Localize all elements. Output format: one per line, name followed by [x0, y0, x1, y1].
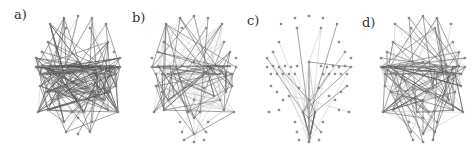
graph-node	[173, 73, 175, 75]
graph-node	[396, 73, 398, 75]
graph-node	[380, 66, 382, 68]
graph-node	[386, 51, 388, 53]
graph-node	[434, 27, 436, 29]
graph-node	[446, 65, 448, 67]
graph-node	[392, 109, 394, 111]
graph-node	[442, 73, 444, 75]
graph-node	[41, 65, 43, 67]
graph-node	[165, 23, 167, 25]
graph-node	[308, 99, 310, 101]
graph-node	[448, 73, 450, 75]
graph-panel-d: d)	[355, 0, 475, 154]
graph-node	[83, 111, 85, 113]
graph-node	[296, 65, 298, 67]
graph-node	[37, 111, 39, 113]
graph-node	[157, 51, 159, 53]
graph-node	[422, 141, 424, 143]
graph-node	[51, 73, 53, 75]
graph-node	[45, 73, 47, 75]
graph-node	[89, 131, 91, 133]
graph-node	[410, 65, 412, 67]
graph-node	[49, 23, 51, 25]
graph-node	[175, 66, 177, 68]
edges	[381, 16, 465, 142]
graph-node	[340, 91, 342, 93]
network-graph	[230, 0, 350, 154]
graph-node	[338, 41, 340, 43]
graph-node	[225, 91, 227, 93]
graph-node	[39, 85, 41, 87]
graph-node	[298, 139, 300, 141]
graph-node	[334, 99, 336, 101]
graph-node	[91, 121, 93, 123]
graph-node	[344, 51, 346, 53]
graph-node	[205, 65, 207, 67]
graph-node	[181, 27, 183, 29]
graph-node	[57, 73, 59, 75]
graph-node	[434, 131, 436, 133]
graph-panel-b: b)	[115, 0, 235, 154]
graph-node	[460, 73, 462, 75]
graph-node	[41, 51, 43, 53]
graph-node	[350, 57, 352, 59]
graph-node	[288, 95, 290, 97]
graph-node	[392, 66, 394, 68]
graph-node	[193, 61, 195, 63]
graph-node	[213, 95, 215, 97]
graph-node	[278, 41, 280, 43]
graph-node	[398, 65, 400, 67]
graph-node	[59, 66, 61, 68]
graph-node	[408, 17, 410, 19]
graph-node	[272, 65, 274, 67]
graph-node	[404, 66, 406, 68]
graph-node	[318, 87, 320, 89]
graph-node	[440, 66, 442, 68]
network-graph	[0, 0, 120, 154]
graph-node	[179, 17, 181, 19]
graph-node	[336, 23, 338, 25]
graph-node	[53, 65, 55, 67]
graph-node	[65, 131, 67, 133]
graph-node	[45, 91, 47, 93]
graph-panel-c: c)	[230, 0, 350, 154]
network-graph	[355, 0, 475, 154]
graph-node	[211, 66, 213, 68]
graph-node	[193, 141, 195, 143]
graph-node	[169, 65, 171, 67]
graph-node	[155, 73, 157, 75]
graph-node	[436, 121, 438, 123]
graph-node	[163, 66, 165, 68]
graph-node	[87, 87, 89, 89]
graph-node	[91, 73, 93, 75]
graph-node	[217, 65, 219, 67]
graph-node	[422, 99, 424, 101]
graph-node	[322, 17, 324, 19]
graph-node	[167, 73, 169, 75]
graph-node	[77, 133, 79, 135]
graph-node	[223, 66, 225, 68]
graph-node	[193, 15, 195, 17]
graph-node	[207, 73, 209, 75]
graph-node	[412, 87, 414, 89]
graph-node	[338, 66, 340, 68]
graph-node	[302, 111, 304, 113]
graph-node	[266, 57, 268, 59]
graph-node	[103, 99, 105, 101]
graph-node	[272, 51, 274, 53]
graph-node	[450, 23, 452, 25]
graph-node	[328, 73, 330, 75]
graph-node	[163, 109, 165, 111]
graph-node	[91, 17, 93, 19]
graph-node	[157, 65, 159, 67]
graph-node	[350, 66, 352, 68]
graph-node	[460, 85, 462, 87]
graph-node	[65, 65, 67, 67]
graph-node	[408, 73, 410, 75]
graph-node	[161, 73, 163, 75]
graph-node	[284, 65, 286, 67]
graph-node	[266, 66, 268, 68]
graph-node	[223, 109, 225, 111]
network-graph	[115, 0, 235, 154]
graph-node	[107, 66, 109, 68]
edges	[36, 16, 120, 134]
